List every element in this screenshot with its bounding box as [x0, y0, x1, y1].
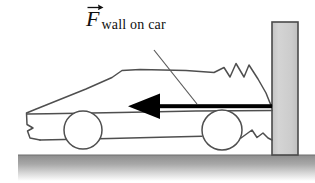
force-subscript: wall on car	[101, 17, 165, 32]
force-symbol: F	[86, 8, 100, 30]
front-wheel	[202, 110, 242, 150]
vector-overbar-arrow-icon	[87, 1, 104, 10]
rear-wheel	[64, 111, 102, 149]
force-label: F wall on car	[86, 8, 165, 30]
wall	[272, 22, 298, 155]
ground-surface	[18, 155, 315, 181]
ground-shading	[18, 155, 315, 181]
force-arrow-shaft	[157, 104, 272, 108]
wall-block	[272, 22, 298, 155]
